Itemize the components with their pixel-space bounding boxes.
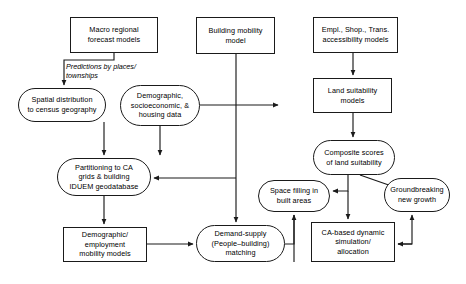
node-label: Composite scores of land suitability — [324, 148, 384, 167]
node-ca-based-simulation[interactable]: CA-based dynamic simulation/ allocation — [311, 222, 395, 262]
node-label: Building mobility model — [209, 26, 263, 45]
flowchart-diagram: Macro regional forecast models Building … — [0, 0, 466, 284]
node-label: Groundbreaking new growth — [390, 185, 443, 204]
node-macro-forecast[interactable]: Macro regional forecast models — [70, 17, 158, 53]
node-label: Demand-supply (People–building) matching — [211, 229, 269, 258]
edge-ca-to-groundbreaking — [398, 215, 412, 244]
edge-composite-to-spacefilling — [333, 175, 348, 191]
node-label: Demographic, socioeconomic, & housing da… — [131, 91, 189, 120]
node-accessibility-models[interactable]: Empl., Shop., Trans. accessibility model… — [313, 17, 398, 53]
node-label: CA-based dynamic simulation/ allocation — [322, 228, 385, 257]
node-spatial-distribution[interactable]: Spatial distribution to census geography — [18, 88, 106, 122]
node-label: Demographic/ employment mobility models — [79, 230, 130, 259]
node-land-suitability[interactable]: Land suitability models — [313, 78, 392, 113]
node-partitioning-ca-grids[interactable]: Partitioning to CA grids & building IDUE… — [57, 158, 151, 196]
node-label: Empl., Shop., Trans. accessibility model… — [322, 25, 390, 44]
node-space-filling[interactable]: Space filling in built areas — [258, 180, 330, 212]
node-label: Macro regional forecast models — [88, 25, 141, 44]
node-building-mobility[interactable]: Building mobility model — [196, 17, 275, 54]
node-label: Land suitability models — [328, 86, 377, 105]
node-groundbreaking-new-growth[interactable]: Groundbreaking new growth — [384, 178, 450, 212]
node-label: Partitioning to CA grids & building IDUE… — [70, 163, 139, 192]
edge-label-predictions: Predictions by places/ townships — [66, 62, 136, 81]
node-demand-supply-matching[interactable]: Demand-supply (People–building) matching — [196, 225, 285, 262]
edge-demand-to-spacefilling — [285, 215, 294, 244]
node-label: Space filling in built areas — [270, 186, 318, 205]
node-composite-scores[interactable]: Composite scores of land suitability — [313, 140, 395, 175]
node-demographic-data[interactable]: Demographic, socioeconomic, & housing da… — [120, 85, 200, 126]
node-label: Spatial distribution to census geography — [27, 95, 96, 114]
node-demographic-employment-mobility[interactable]: Demographic/ employment mobility models — [63, 227, 147, 262]
